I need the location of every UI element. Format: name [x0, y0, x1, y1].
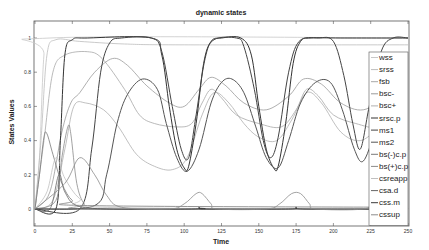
- x-tick-label: 125: [217, 228, 226, 234]
- legend-entry: srss: [379, 65, 394, 74]
- legend: wsssrssfsbbsc-bsc+srsc.pms1ms2bs(-)c.pbs…: [369, 52, 409, 225]
- legend-entry: bsc+: [379, 101, 396, 110]
- y-tick-label: 0.2: [24, 172, 31, 178]
- legend-entry: ms2: [379, 138, 395, 147]
- y-tick-label: 0.4: [24, 137, 31, 143]
- x-tick-label: 100: [180, 228, 189, 234]
- x-tick-label: 225: [367, 228, 376, 234]
- y-axis-label: States Values: [8, 99, 15, 144]
- legend-entry: ms1: [379, 126, 395, 135]
- x-tick-label: 0: [34, 228, 37, 234]
- legend-entry: srsc.p: [379, 114, 401, 123]
- y-tick-label: 0.6: [24, 103, 31, 109]
- legend-entry: csa.d: [379, 186, 398, 195]
- legend-entry: bs(-)c.p: [379, 150, 407, 159]
- x-tick-label: 250: [404, 228, 413, 234]
- chart-title: dynamic states: [196, 9, 247, 17]
- legend-entry: bs(+)c.p: [379, 162, 409, 171]
- y-tick-label: 0.8: [24, 69, 31, 75]
- chart-figure: dynamic states 00.20.40.60.81 0255075100…: [0, 0, 429, 250]
- x-tick-label: 200: [329, 228, 338, 234]
- x-tick-label: 175: [292, 228, 301, 234]
- y-tick-label: 1: [28, 35, 31, 41]
- x-tick-label: 75: [144, 228, 150, 234]
- legend-entry: csreapp: [379, 174, 408, 183]
- legend-entry: wss: [378, 53, 393, 62]
- legend-entry: cssup: [379, 210, 400, 219]
- x-axis-label: Time: [213, 238, 229, 245]
- y-tick-label: 0: [28, 206, 31, 212]
- legend-entry: css.m: [379, 198, 400, 207]
- x-tick-label: 25: [70, 228, 76, 234]
- x-tick-label: 150: [255, 228, 264, 234]
- legend-entry: fsb: [379, 77, 390, 86]
- x-tick-label: 50: [107, 228, 113, 234]
- legend-entry: bsc-: [379, 89, 394, 98]
